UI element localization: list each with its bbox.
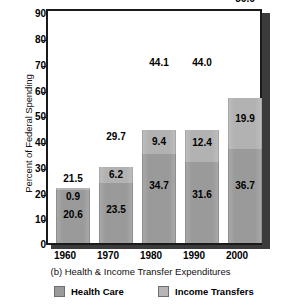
segment-income-transfers: 6.2 xyxy=(99,167,133,183)
segment-health-care: 36.7 xyxy=(228,149,262,243)
stacked-bar-chart: Percent of Federal Spending 90 80 70 60 … xyxy=(0,0,281,308)
plot-area: 21.5 0.9 20.6 29.7 6.2 23.5 44.1 9.4 34.… xyxy=(48,11,260,243)
segment-health-care: 31.6 xyxy=(185,162,219,243)
segment-label-health-care: 23.5 xyxy=(100,205,132,215)
bar-total-label: 29.7 xyxy=(95,132,137,142)
x-tick-label-2000: 2000 xyxy=(214,250,260,261)
chart-legend: Health Care Income Transfers xyxy=(0,286,281,304)
segment-label-income-transfers: 6.2 xyxy=(100,170,132,180)
x-tick-label-1990: 1990 xyxy=(171,250,217,261)
chart-caption: (b) Health & Income Transfer Expenditure… xyxy=(0,266,281,277)
health-care-swatch-icon xyxy=(54,286,65,297)
bar-total-label: 44.1 xyxy=(138,58,180,68)
segment-income-transfers: 9.4 xyxy=(142,130,176,154)
bar-2000: 56.6 19.9 36.7 xyxy=(228,98,262,243)
x-tick-label-1970: 1970 xyxy=(85,250,131,261)
segment-income-transfers: 19.9 xyxy=(228,98,262,149)
legend-label-income-transfers: Income Transfers xyxy=(175,286,254,297)
bar-1960: 21.5 0.9 20.6 xyxy=(56,188,90,243)
segment-label-income-transfers: 19.9 xyxy=(229,114,261,124)
segment-label-health-care: 34.7 xyxy=(143,181,175,191)
segment-label-income-transfers: 9.4 xyxy=(143,137,175,147)
income-transfers-swatch-icon xyxy=(158,286,169,297)
y-tick-label: 90 xyxy=(22,9,46,19)
segment-label-income-transfers: 12.4 xyxy=(186,138,218,148)
legend-item-health-care: Health Care xyxy=(54,286,124,297)
bar-1990: 44.0 12.4 31.6 xyxy=(185,130,219,243)
segment-health-care: 34.7 xyxy=(142,154,176,243)
bar-total-label: 21.5 xyxy=(52,174,94,184)
segment-label-health-care: 36.7 xyxy=(229,181,261,191)
y-tick-label: 0 xyxy=(22,240,46,250)
segment-income-transfers: 12.4 xyxy=(185,130,219,162)
bar-1980: 44.1 9.4 34.7 xyxy=(142,130,176,243)
segment-health-care: 0.9 20.6 xyxy=(56,190,90,243)
segment-label-health-care: 20.6 xyxy=(57,210,89,220)
x-tick-label-1960: 1960 xyxy=(42,250,88,261)
legend-item-income-transfers: Income Transfers xyxy=(158,286,254,297)
segment-label-health-care: 31.6 xyxy=(186,190,218,200)
segment-health-care: 23.5 xyxy=(99,183,133,243)
x-tick-label-1980: 1980 xyxy=(128,250,174,261)
bar-total-label: 56.6 xyxy=(224,0,266,4)
y-axis-ticks: 90 80 70 60 50 40 30 20 10 0 xyxy=(14,0,46,308)
segment-label-income-transfers: 0.9 xyxy=(57,192,89,202)
legend-label-health-care: Health Care xyxy=(71,286,124,297)
bar-total-label: 44.0 xyxy=(181,58,223,68)
bar-1970: 29.7 6.2 23.5 xyxy=(99,167,133,243)
